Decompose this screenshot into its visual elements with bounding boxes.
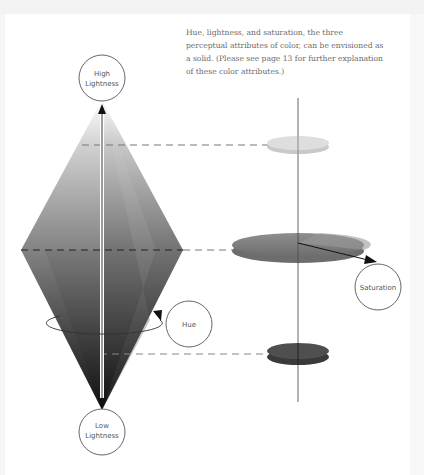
- disk-bottom: [267, 343, 329, 365]
- color-solid-diagram: High Lightness Low Lightness Hue Saturat…: [0, 0, 424, 475]
- hue-text: Hue: [182, 321, 196, 329]
- disk-middle: [232, 233, 371, 263]
- high-lightness-text-2: Lightness: [85, 80, 119, 88]
- low-lightness-text-2: Lightness: [85, 432, 119, 440]
- disk-top: [267, 136, 329, 154]
- low-lightness-label: Low Lightness: [79, 409, 125, 455]
- low-lightness-text-1: Low: [95, 422, 109, 430]
- saturation-label: Saturation: [355, 264, 401, 310]
- high-lightness-text-1: High: [94, 70, 110, 78]
- high-lightness-label: High Lightness: [79, 55, 125, 101]
- saturation-arrow-icon: [364, 255, 377, 264]
- saturation-text: Saturation: [360, 284, 397, 292]
- hue-arrow-icon: [153, 310, 162, 321]
- hue-label: Hue: [166, 301, 212, 347]
